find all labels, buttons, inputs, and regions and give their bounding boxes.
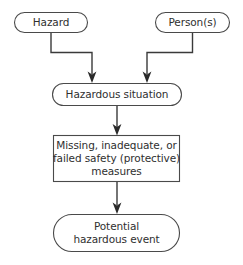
node-measures-shape (54, 136, 180, 182)
edge-persons-to-situation (147, 33, 193, 74)
node-hazard-shape (15, 13, 88, 33)
flowchart-diagram: Hazard Person(s) Hazardous situation Mis… (0, 0, 243, 265)
diagram-canvas (0, 0, 243, 265)
edge-hazard-to-situation (51, 33, 92, 74)
node-persons-shape (156, 13, 230, 33)
node-hazardous-situation-shape (53, 84, 182, 106)
node-potential-event-shape (54, 215, 180, 252)
